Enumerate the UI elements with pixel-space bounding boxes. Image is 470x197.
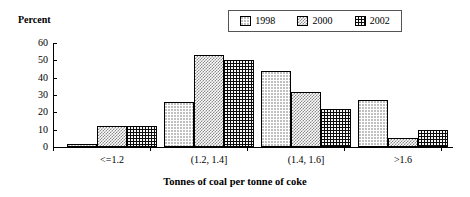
y-tick-mark — [53, 130, 57, 131]
legend-entry-1998[interactable]: 1998 — [240, 16, 275, 26]
x-tick-mark — [247, 147, 248, 151]
y-tick-label: 30 — [24, 90, 48, 100]
y-tick-mark — [53, 112, 57, 113]
x-axis-line — [53, 147, 453, 148]
legend-entry-2002[interactable]: 2002 — [355, 16, 390, 26]
y-tick-label: 0 — [24, 142, 48, 152]
bar-2002-<=1.2 — [127, 126, 157, 147]
legend-swatch-icon — [297, 16, 308, 26]
bar-2000-(1.4, 1.6] — [291, 92, 321, 147]
bar-2000-(1.2, 1.4] — [194, 55, 224, 147]
bar-1998-(1.4, 1.6] — [261, 71, 291, 147]
y-tick-mark — [53, 43, 57, 44]
y-tick-mark — [53, 60, 57, 61]
x-tick-mark — [150, 147, 151, 151]
chart-legend: 199820002002 — [228, 10, 402, 32]
legend-label: 2002 — [370, 16, 390, 26]
y-tick-mark — [53, 78, 57, 79]
y-axis-title: Percent — [18, 14, 51, 25]
y-tick-mark — [53, 95, 57, 96]
bar-1998->1.6 — [358, 100, 388, 147]
y-tick-label: 60 — [24, 38, 48, 48]
x-tick-mark — [53, 147, 54, 151]
legend-swatch-icon — [355, 16, 366, 26]
y-tick-label: 50 — [24, 55, 48, 65]
bar-2002-(1.2, 1.4] — [224, 60, 254, 147]
x-category-label: <=1.2 — [62, 154, 162, 165]
x-category-label: (1.2, 1.4] — [159, 154, 259, 165]
legend-swatch-icon — [240, 16, 251, 26]
x-category-label: (1.4, 1.6] — [256, 154, 356, 165]
x-axis-title: Tonnes of coal per tonne of coke — [0, 176, 470, 188]
legend-label: 1998 — [255, 16, 275, 26]
x-tick-mark — [441, 147, 442, 151]
legend-label: 2000 — [312, 16, 332, 26]
bar-2002->1.6 — [418, 130, 448, 147]
bar-2002-(1.4, 1.6] — [321, 109, 351, 147]
bar-2000-<=1.2 — [97, 126, 127, 147]
y-tick-label: 10 — [24, 125, 48, 135]
bar-1998-(1.2, 1.4] — [164, 102, 194, 147]
bar-2000->1.6 — [388, 138, 418, 147]
x-tick-mark — [344, 147, 345, 151]
y-tick-label: 20 — [24, 107, 48, 117]
bar-1998-<=1.2 — [67, 144, 97, 147]
y-tick-label: 40 — [24, 73, 48, 83]
legend-entry-2000[interactable]: 2000 — [297, 16, 332, 26]
x-category-label: >1.6 — [353, 154, 453, 165]
